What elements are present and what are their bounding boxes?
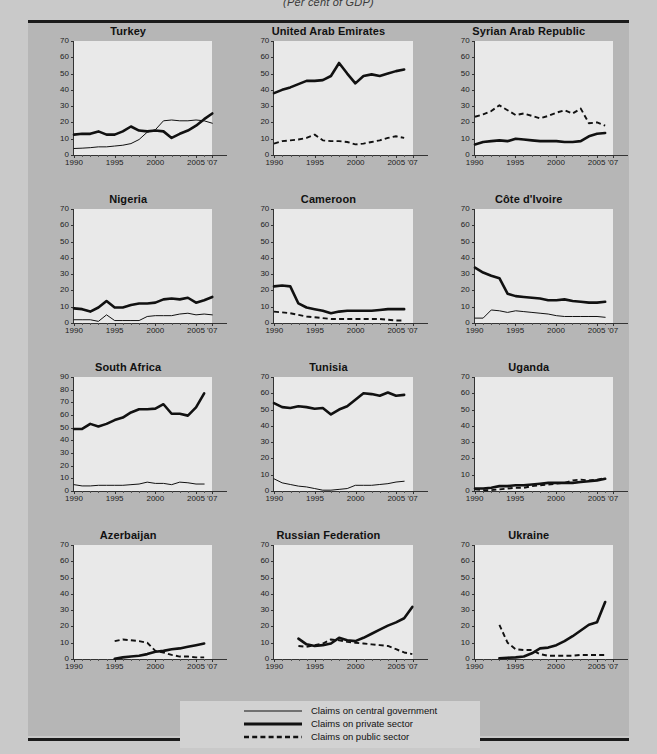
x-minor-tick [139, 659, 140, 661]
panel-south-africa: South Africa0102030405060708090199019952… [28, 359, 228, 527]
y-tick-label: 70 [461, 205, 470, 213]
x-minor-tick [123, 659, 124, 661]
y-tick-label: 20 [461, 286, 470, 294]
y-tick-label: 20 [260, 286, 269, 294]
plot-area: 0102030405060701990199520002005'07 [74, 545, 212, 659]
panel-container: Turkey0102030405060701990199520002005'07… [28, 23, 629, 736]
plot-area: 0102030405060701990199520002005'07 [74, 41, 212, 155]
plot-area: 0102030405060701990199520002005'07 [274, 209, 412, 323]
x-minor-tick [107, 491, 108, 493]
x-minor-tick [339, 491, 340, 493]
legend: Claims on central government Claims on p… [180, 701, 480, 748]
series-line-central [274, 479, 404, 490]
x-minor-tick [364, 659, 365, 661]
y-tick-label: 60 [60, 221, 69, 229]
x-tick-label: 2000 [347, 327, 365, 335]
x-minor-tick [372, 155, 373, 157]
x-minor-tick [580, 323, 581, 325]
x-minor-tick [139, 491, 140, 493]
x-minor-tick [507, 323, 508, 325]
x-tick-label: '07 [207, 159, 217, 167]
x-tick-label: 1990 [265, 327, 283, 335]
x-minor-tick [532, 323, 533, 325]
y-tick-label: 30 [260, 270, 269, 278]
panel-c-te-d-ivoire: Côte d'Ivoire010203040506070199019952000… [429, 191, 629, 359]
x-minor-tick [523, 659, 524, 661]
panel-united-arab-emirates: United Arab Emirates01020304050607019901… [228, 23, 428, 191]
series-line-central [475, 310, 605, 318]
series-layer [274, 545, 412, 659]
x-minor-tick [188, 659, 189, 661]
x-minor-tick [572, 659, 573, 661]
x-minor-tick [404, 659, 405, 661]
y-tick-label: 40 [461, 422, 470, 430]
x-tick-label: 2005 [387, 663, 405, 671]
x-tick-label: 2005 [588, 495, 606, 503]
y-tick-label: 70 [60, 37, 69, 45]
x-tick-label: '07 [207, 663, 217, 671]
x-minor-tick [282, 155, 283, 157]
series-line-central [74, 313, 212, 321]
x-minor-tick [139, 323, 140, 325]
panel-title: Russian Federation [228, 529, 428, 541]
x-minor-tick [605, 659, 606, 661]
y-tick-label: 20 [461, 118, 470, 126]
series-line-private [115, 644, 204, 659]
x-minor-tick [388, 491, 389, 493]
panel-title: Azerbaijan [28, 529, 228, 541]
y-tick-label: 20 [60, 462, 69, 470]
y-tick-label: 20 [461, 622, 470, 630]
x-minor-tick [147, 491, 148, 493]
x-tick-label: '07 [207, 327, 217, 335]
x-tick-label: 2000 [547, 495, 565, 503]
x-minor-tick [90, 323, 91, 325]
x-minor-tick [605, 323, 606, 325]
x-minor-tick [299, 659, 300, 661]
panel-nigeria: Nigeria0102030405060701990199520002005'0… [28, 191, 228, 359]
x-tick-label: 2005 [387, 159, 405, 167]
x-minor-tick [540, 323, 541, 325]
x-tick-label: 1990 [65, 327, 83, 335]
x-minor-tick [82, 491, 83, 493]
x-minor-tick [564, 491, 565, 493]
x-minor-tick [380, 323, 381, 325]
x-minor-tick [204, 323, 205, 325]
plot-area: 0102030405060701990199520002005'07 [74, 209, 212, 323]
y-tick-label: 10 [260, 471, 269, 479]
x-minor-tick [580, 491, 581, 493]
x-tick-label: 2000 [146, 663, 164, 671]
x-minor-tick [331, 491, 332, 493]
series-line-public [499, 625, 605, 656]
plot-area: 0102030405060701990199520002005'07 [475, 377, 613, 491]
panel-uganda: Uganda0102030405060701990199520002005'07 [429, 359, 629, 527]
x-minor-tick [491, 659, 492, 661]
x-minor-tick [188, 323, 189, 325]
x-minor-tick [580, 155, 581, 157]
x-minor-tick [123, 155, 124, 157]
y-tick-label: 10 [260, 135, 269, 143]
y-tick-label: 60 [260, 389, 269, 397]
x-minor-tick [147, 155, 148, 157]
x-tick-label: 1995 [506, 495, 524, 503]
series-line-private [475, 268, 605, 303]
x-minor-tick [204, 491, 205, 493]
y-tick-label: 40 [60, 254, 69, 262]
plot-area: 0102030405060701990199520002005'07 [475, 41, 613, 155]
x-minor-tick [507, 491, 508, 493]
legend-item-public: Claims on public sector [242, 730, 480, 743]
plot-area: 01020304050607080901990199520002005'07 [74, 377, 212, 491]
y-tick-label: 70 [260, 541, 269, 549]
x-minor-tick [331, 155, 332, 157]
x-minor-tick [380, 659, 381, 661]
x-minor-tick [339, 659, 340, 661]
panel-title: South Africa [28, 361, 228, 373]
x-tick-label: 2005 [387, 495, 405, 503]
y-tick-label: 70 [260, 205, 269, 213]
x-minor-tick [540, 659, 541, 661]
x-minor-tick [131, 155, 132, 157]
x-tick-label: 2000 [146, 159, 164, 167]
x-minor-tick [483, 323, 484, 325]
panel-title: Turkey [28, 25, 228, 37]
series-line-private [74, 113, 212, 137]
y-tick-label: 40 [260, 86, 269, 94]
